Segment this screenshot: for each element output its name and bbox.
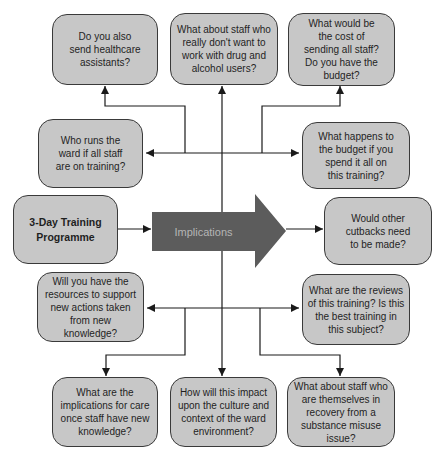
- box-resources-support: Will you have the resources to support n…: [37, 272, 144, 342]
- box-cost-budget: What would be the cost of sending all st…: [288, 13, 395, 86]
- box-reluctant-staff: What about staff who really don't want t…: [170, 13, 278, 85]
- implications-arrow-label: Implications: [152, 212, 255, 251]
- box-implications-care: What are the implications for care once …: [52, 377, 158, 447]
- box-other-cutbacks: Would other cutbacks need to be made?: [324, 197, 432, 265]
- box-training-reviews: What are the reviews of this training? I…: [302, 274, 410, 345]
- box-budget-spent: What happens to the budget if you spend …: [302, 122, 410, 189]
- box-ward-cover: Who runs the ward if all staff are on tr…: [38, 119, 143, 188]
- implications-diagram: Do you also send healthcare assistants? …: [0, 0, 445, 460]
- box-training-programme: 3-Day Training Programme: [13, 195, 118, 264]
- box-culture-context: How will this impact upon the culture an…: [170, 377, 277, 447]
- box-healthcare-assistants: Do you also send healthcare assistants?: [52, 14, 158, 85]
- box-staff-recovery: What about staff who are themselves in r…: [287, 377, 395, 447]
